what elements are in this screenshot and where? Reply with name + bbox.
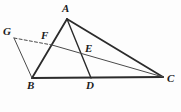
- geometry-canvas: [0, 0, 181, 112]
- segment-AC: [67, 19, 163, 77]
- segment-GB: [14, 38, 32, 78]
- vertex-label-G: G: [3, 26, 11, 37]
- vertex-label-F: F: [41, 30, 48, 41]
- segment-FC: [52, 45, 163, 77]
- segment-BC: [32, 77, 163, 78]
- vertex-label-C: C: [167, 73, 174, 84]
- geometry-figure: A B C D E F G: [0, 0, 181, 112]
- vertex-label-D: D: [86, 80, 94, 91]
- vertex-label-A: A: [62, 3, 69, 14]
- vertex-label-B: B: [27, 80, 34, 91]
- vertex-label-E: E: [85, 43, 92, 54]
- segment-AB: [32, 19, 67, 78]
